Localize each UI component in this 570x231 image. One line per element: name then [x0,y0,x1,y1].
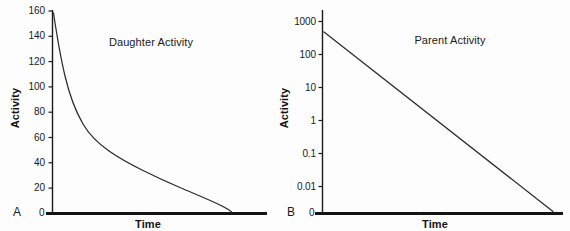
plot-title-b: Parent Activity [395,34,505,46]
panel-letter-b: B [287,205,295,219]
panel-a-daughter-activity: 160 140 120 100 80 60 40 20 0 Activity D… [0,0,285,231]
figure-root: 160 140 120 100 80 60 40 20 0 Activity D… [0,0,570,231]
y-tick-label-20: 20 [22,183,45,193]
y-tick-label-140: 140 [22,31,45,41]
panel-b-parent-activity: 1000 100 10 1 0.1 0.01 0 Activity Parent… [285,0,570,231]
y-tick-label-40: 40 [22,158,45,168]
panel-letter-a: A [13,205,21,219]
y-tick-label-160: 160 [22,6,45,16]
y-tick-label-120: 120 [22,57,45,67]
y-tick-label-1000: 1000 [283,17,316,27]
y-tick-label-0-1: 0.1 [283,149,316,159]
x-axis-title-b: Time [405,218,465,230]
plot-title-a: Daughter Activity [95,36,207,48]
parent-activity-line [324,32,553,212]
y-tick-label-100: 100 [283,50,316,60]
x-axis-title-a: Time [118,218,178,230]
y-axis-zero-label-a: 0 [39,207,45,218]
y-axis-title-b: Activity [278,82,290,134]
y-axis-title-a: Activity [9,82,21,134]
y-axis-zero-label-b: 0 [309,207,315,218]
y-tick-label-100: 100 [22,82,45,92]
y-tick-label-80: 80 [22,107,45,117]
y-tick-label-60: 60 [22,133,45,143]
y-tick-label-0-01: 0.01 [283,182,316,192]
